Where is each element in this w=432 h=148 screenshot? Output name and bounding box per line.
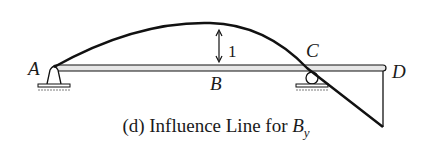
- caption-symbol: B: [292, 115, 304, 136]
- point-label-b: B: [210, 73, 222, 94]
- point-label-d: D: [391, 61, 406, 82]
- beam: [53, 65, 386, 71]
- ordinate-arrow-icon: [216, 30, 222, 62]
- ordinate-label: 1: [228, 42, 237, 61]
- caption-prefix: (d) Influence Line for: [122, 115, 292, 136]
- caption-subscript: y: [304, 125, 310, 140]
- point-label-c: C: [306, 40, 319, 61]
- point-label-a: A: [26, 58, 40, 79]
- figure-caption: (d) Influence Line for By: [0, 115, 432, 141]
